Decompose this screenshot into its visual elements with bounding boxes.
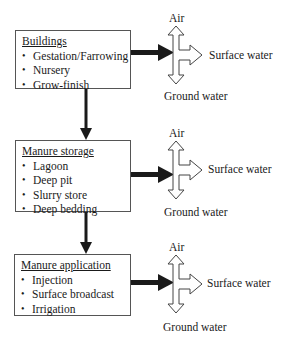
stage-title: Manure application bbox=[21, 258, 124, 273]
output-label-surface-water: Surface water bbox=[207, 277, 271, 290]
stage-box-manure-storage: Manure storage Lagoon Deep pit Slurry st… bbox=[15, 140, 131, 212]
stage-title: Buildings bbox=[22, 34, 124, 49]
stage-title: Manure storage bbox=[22, 144, 124, 159]
stage-item-list: Lagoon Deep pit Slurry store Deep beddin… bbox=[22, 159, 124, 217]
list-item: Deep pit bbox=[22, 173, 124, 188]
right-arrow-buildings bbox=[131, 44, 174, 61]
three-way-arrow-application bbox=[168, 255, 202, 313]
output-label-air: Air bbox=[169, 241, 184, 254]
output-label-ground-water: Ground water bbox=[163, 321, 227, 334]
list-item: Surface broadcast bbox=[21, 287, 124, 302]
output-label-surface-water: Surface water bbox=[209, 49, 273, 62]
down-arrow-storage-to-application bbox=[80, 212, 92, 254]
stage-item-list: Injection Surface broadcast Irrigation bbox=[21, 273, 124, 317]
list-item: Nursery bbox=[22, 63, 124, 78]
list-item: Deep bedding bbox=[22, 202, 124, 217]
list-item: Lagoon bbox=[22, 159, 124, 174]
output-label-ground-water: Ground water bbox=[164, 90, 228, 103]
list-item: Injection bbox=[21, 273, 124, 288]
output-label-air: Air bbox=[169, 12, 184, 25]
output-label-ground-water: Ground water bbox=[164, 206, 228, 219]
output-label-air: Air bbox=[169, 127, 184, 140]
three-way-arrow-buildings bbox=[168, 26, 202, 84]
list-item: Gestation/Farrowing bbox=[22, 49, 124, 64]
list-item: Grow-finish bbox=[22, 78, 124, 93]
right-arrow-application bbox=[131, 274, 174, 291]
output-label-surface-water: Surface water bbox=[208, 163, 272, 176]
stage-item-list: Gestation/Farrowing Nursery Grow-finish bbox=[22, 49, 124, 93]
right-arrow-storage bbox=[131, 166, 174, 183]
diagram-canvas: Buildings Gestation/Farrowing Nursery Gr… bbox=[0, 0, 287, 343]
stage-box-buildings: Buildings Gestation/Farrowing Nursery Gr… bbox=[15, 30, 131, 89]
down-arrow-buildings-to-storage bbox=[80, 88, 92, 140]
list-item: Slurry store bbox=[22, 188, 124, 203]
three-way-arrow-storage bbox=[168, 141, 202, 199]
stage-box-manure-application: Manure application Injection Surface bro… bbox=[14, 254, 131, 316]
list-item: Irrigation bbox=[21, 302, 124, 317]
